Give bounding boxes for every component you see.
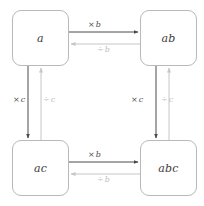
edge-label-right-inverse: ÷c — [161, 95, 173, 104]
operator-glyph: × — [88, 150, 96, 159]
operand-symbol: c — [139, 95, 143, 104]
node-abc-label: abc — [158, 162, 178, 175]
edge-label-right-forward: ×c — [131, 95, 143, 104]
node-ac[interactable]: ac — [12, 140, 69, 196]
operand-symbol: b — [96, 150, 101, 159]
operand-symbol: c — [51, 95, 55, 104]
node-ab[interactable]: ab — [140, 10, 197, 66]
node-ac-label: ac — [34, 162, 47, 175]
node-a[interactable]: a — [12, 10, 69, 66]
operator-glyph: ÷ — [161, 95, 169, 104]
operator-glyph: × — [13, 95, 21, 104]
operand-symbol: c — [169, 95, 173, 104]
operand-symbol: c — [21, 95, 25, 104]
operator-glyph: ÷ — [43, 95, 51, 104]
operand-symbol: b — [105, 175, 110, 184]
node-a-label: a — [37, 32, 44, 45]
operator-glyph: ÷ — [97, 175, 105, 184]
operator-glyph: × — [88, 20, 96, 29]
node-abc[interactable]: abc — [140, 140, 197, 196]
edge-label-bottom-forward: ×b — [88, 150, 101, 159]
edge-label-left-inverse: ÷c — [43, 95, 55, 104]
operator-glyph: × — [131, 95, 139, 104]
edge-label-left-forward: ×c — [13, 95, 25, 104]
operand-symbol: b — [96, 20, 101, 29]
edge-label-top-inverse: ÷b — [97, 45, 110, 54]
diagram-canvas: a ab ac abc ×b ÷b ×b ÷b ×c ÷c ×c ÷c — [0, 0, 204, 206]
operand-symbol: b — [105, 45, 110, 54]
operator-glyph: ÷ — [97, 45, 105, 54]
node-ab-label: ab — [162, 32, 176, 45]
edge-label-top-forward: ×b — [88, 20, 101, 29]
edge-label-bottom-inverse: ÷b — [97, 175, 110, 184]
